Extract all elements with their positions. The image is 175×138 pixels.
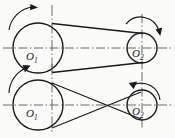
rotation-arc-o2-top bbox=[126, 17, 159, 31]
rotation-arrowhead-o1-top bbox=[30, 4, 38, 10]
rotation-arrowhead-o2-top bbox=[156, 28, 163, 37]
belt-upper-span-open bbox=[52, 24, 143, 34]
crossed-belt-drive-diagram: O1 O2 bbox=[3, 64, 172, 133]
rotation-arc-o1-top bbox=[9, 7, 33, 30]
clockwise-rotation-arrow-o1-top bbox=[9, 4, 38, 30]
rotation-arc-o2-bottom bbox=[133, 83, 160, 100]
pulley-label-o1-top: O1 bbox=[26, 50, 38, 65]
belt-drive-figure: O1 O2 bbox=[0, 0, 175, 138]
pulley-label-o1-bottom: O1 bbox=[26, 107, 38, 122]
rotation-arrowhead-o2-bottom bbox=[129, 82, 137, 90]
rotation-arc-o1-bottom bbox=[9, 68, 26, 93]
open-belt-drive-diagram: O1 O2 bbox=[3, 4, 172, 73]
belt-drive-svg: O1 O2 bbox=[0, 0, 175, 138]
belt-lower-span-open bbox=[52, 63, 143, 73]
